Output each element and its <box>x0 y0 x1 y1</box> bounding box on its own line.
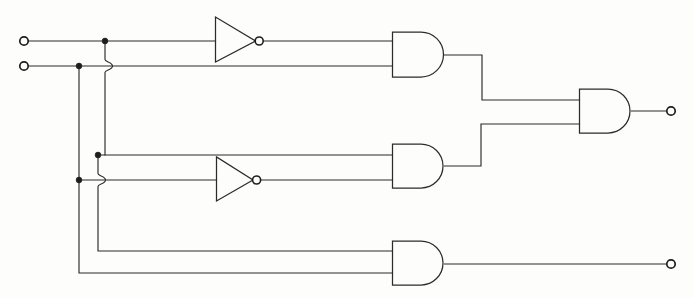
wire-input1-down-to-and-bottom <box>98 155 393 251</box>
input-terminal-2[interactable] <box>20 62 28 70</box>
gate-layer <box>216 17 631 285</box>
junction-mid-upper-tap <box>95 152 101 158</box>
wire-input1-vertical-drop <box>105 41 113 155</box>
inverter-middle-bubble <box>253 176 261 184</box>
terminal-layer <box>20 37 675 268</box>
and-gate-middle-body <box>393 144 444 188</box>
inverter-middle[interactable] <box>217 157 261 201</box>
junction-mid-lower-tap <box>76 177 82 183</box>
inverter-middle-triangle <box>217 157 254 201</box>
schematic-canvas <box>0 0 693 298</box>
and-gate-middle[interactable] <box>393 144 444 188</box>
logic-circuit-diagram <box>0 0 693 298</box>
and-gate-bottom[interactable] <box>393 241 444 285</box>
wire-layer <box>28 41 667 273</box>
junction-input2-tap <box>76 63 82 69</box>
junction-layer <box>76 38 108 183</box>
output-terminal-1[interactable] <box>667 107 675 115</box>
inverter-top[interactable] <box>216 17 264 62</box>
and-gate-output[interactable] <box>580 89 631 133</box>
and-gate-top[interactable] <box>393 32 444 77</box>
and-gate-output-body <box>580 89 631 133</box>
inverter-top-bubble <box>255 37 263 45</box>
inverter-top-triangle <box>216 17 256 62</box>
input-terminal-1[interactable] <box>20 37 28 45</box>
and-gate-top-body <box>393 32 444 77</box>
output-terminal-2[interactable] <box>667 260 675 268</box>
junction-input1-tap <box>102 38 108 44</box>
wire-and-top-out-to-final <box>445 55 580 100</box>
and-gate-bottom-body <box>393 241 444 285</box>
wire-and-middle-out-to-final <box>445 124 580 166</box>
